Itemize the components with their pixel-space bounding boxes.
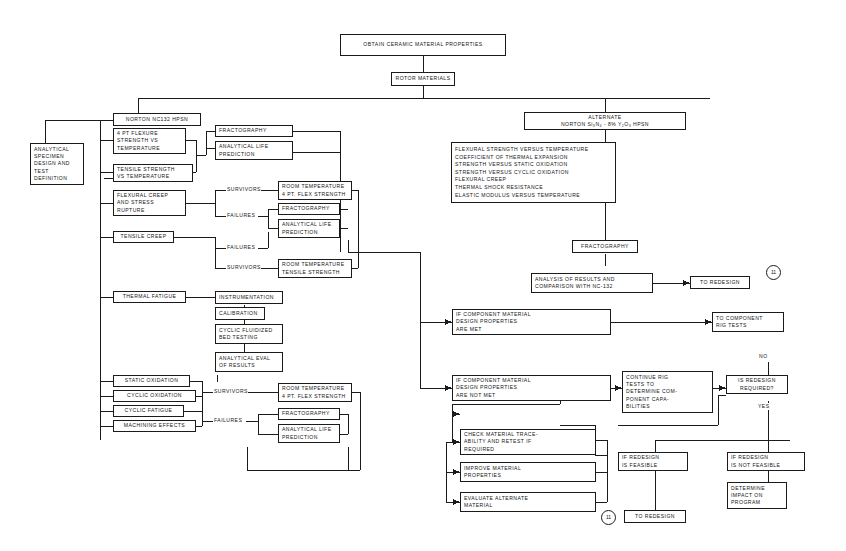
cyclic-fatigue-box: CYCLIC FATIGUE: [113, 405, 184, 417]
yes-label: YES: [758, 403, 770, 410]
failures-label-1: FAILURES: [227, 212, 255, 219]
check-material-traceability-box: CHECK MATERIAL TRACE- ABILITY AND RETEST…: [460, 429, 596, 455]
analytical-eval-results-box: ANALYTICAL EVAL OF RESULTS: [215, 352, 283, 372]
alternate-norton-hpsn-box: ALTERNATE NORTON Si₃N₄ - 8% Y₂O₃ HPSN: [524, 112, 686, 130]
analytical-life-prediction-box-2: ANALYTICAL LIFE PREDICTION: [278, 219, 340, 238]
to-redesign-box-2: TO REDESIGN: [624, 510, 686, 523]
analytical-specimen-definition-box: ANALYTICAL SPECIMEN DESIGN AND TEST DEFI…: [30, 143, 84, 185]
room-temperature-tensile-strength-box: ROOM TEMPERATURE TENSILE STRENGTH: [278, 259, 352, 278]
instrumentation-box: INSTRUMENTATION: [215, 291, 283, 304]
reference-marker-11-top: 11: [766, 265, 781, 280]
analysis-of-results-box: ANALYSIS OF RESULTS AND COMPARISON WITH …: [531, 273, 653, 293]
fractography-box-4: FRACTOGRAPHY: [572, 240, 638, 253]
room-temperature-flex-strength-box-2: ROOM TEMPERATURE 4 PT. FLEX STRENGTH: [278, 383, 352, 402]
evaluate-alternate-material-box: EVALUATE ALTERNATE MATERIAL: [460, 492, 596, 512]
obtain-ceramic-material-properties-box: OBTAIN CERAMIC MATERIAL PROPERTIES: [340, 34, 506, 56]
if-redesign-feasible-box: IF REDESIGN IS FEASIBLE: [618, 452, 688, 471]
design-properties-met-box: IF COMPONENT MATERIAL DESIGN PROPERTIES …: [452, 309, 611, 335]
design-properties-not-met-box: IF COMPONENT MATERIAL DESIGN PROPERTIES …: [452, 375, 611, 401]
survivors-label-3: SURVIVORS: [214, 388, 248, 395]
to-component-rig-tests-box: TO COMPONENT RIG TESTS: [712, 312, 784, 332]
four-pt-flexure-strength-box: 4 PT FLEXURE STRENGTH VS TEMPERATURE: [113, 128, 186, 154]
tensile-creep-box: TENSILE CREEP: [113, 231, 174, 243]
fractography-box-3: FRACTOGRAPHY: [278, 408, 340, 420]
room-temperature-flex-strength-box-1: ROOM TEMPERATURE 4 PT. FLEX STRENGTH: [278, 181, 352, 200]
thermal-fatigue-box: THERMAL FATIGUE: [113, 291, 186, 303]
norton-nc132-hpsn-box: NORTON NC132 HPSN: [113, 113, 201, 126]
improve-material-properties-box: IMPROVE MATERIAL PROPERTIES: [460, 462, 596, 482]
continue-rig-tests-box: CONTINUE RIG TESTS TO DETERMINE COM- PON…: [622, 371, 713, 413]
fractography-box-2: FRACTOGRAPHY: [278, 203, 340, 215]
no-label: NO: [759, 353, 768, 360]
flowchart-canvas: OBTAIN CERAMIC MATERIAL PROPERTIES ROTOR…: [0, 0, 846, 551]
survivors-label-2: SURVIVORS: [227, 264, 261, 271]
alternate-properties-list-box: FLEXURAL STRENGTH VERSUS TEMPERATURE COE…: [451, 142, 616, 203]
is-redesign-required-box: IS REDESIGN REQUIRED?: [726, 375, 788, 394]
cyclic-oxidation-box: CYCLIC OXIDATION: [113, 390, 196, 402]
determine-impact-on-program-box: DETERMINE IMPACT ON PROGRAM: [727, 482, 787, 509]
cyclic-fluidized-bed-testing-box: CYCLIC FLUIDIZED BED TESTING: [215, 324, 283, 344]
analytical-life-prediction-box-3: ANALYTICAL LIFE PREDICTION: [278, 424, 340, 443]
failures-label-3: FAILURES: [214, 417, 242, 424]
static-oxidation-box: STATIC OXIDATION: [113, 375, 190, 387]
survivors-label-1: SURVIVORS: [227, 186, 261, 193]
if-redesign-not-feasible-box: IF REDESIGN IS NOT FEASIBLE: [727, 452, 805, 471]
rotor-materials-box: ROTOR MATERIALS: [391, 72, 455, 86]
tensile-strength-temperature-box: TENSILE STRENGTH VS TEMPERATURE: [113, 164, 193, 182]
to-redesign-box-1: TO REDESIGN: [690, 276, 750, 289]
machining-effects-box: MACHINING EFFECTS: [113, 420, 196, 432]
flexural-creep-stress-rupture-box: FLEXURAL CREEP AND STRESS RUPTURE: [113, 190, 186, 216]
calibration-box: CALIBRATION: [215, 307, 265, 320]
analytical-life-prediction-box-1: ANALYTICAL LIFE PREDICTION: [215, 141, 293, 160]
fractography-box-1: FRACTOGRAPHY: [215, 125, 293, 137]
failures-label-2: FAILURES: [227, 244, 255, 251]
reference-marker-11-bottom: 11: [601, 510, 616, 525]
